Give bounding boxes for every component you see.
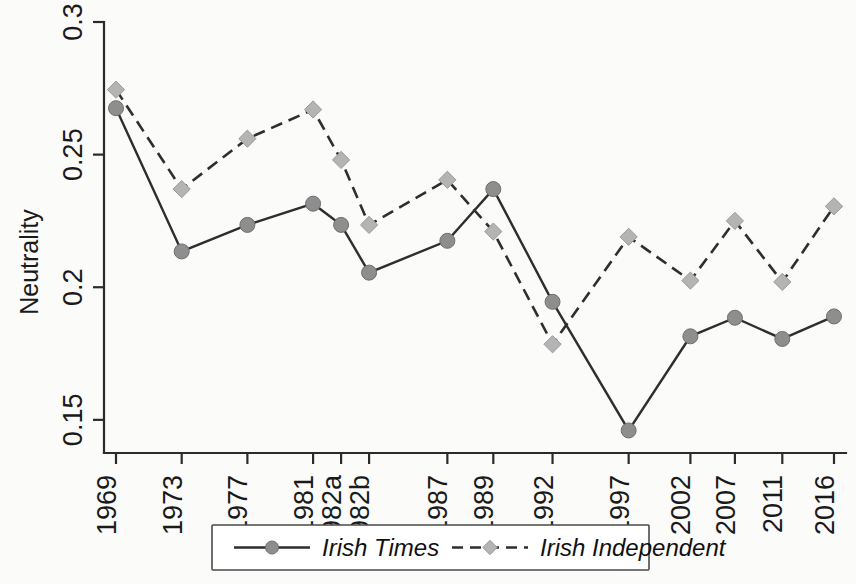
y-axis-tick-label: 0.3 [58,3,88,41]
y-axis-tick-label: 0.15 [58,394,88,447]
data-point-marker [683,329,698,344]
data-point-marker [440,233,455,248]
chart-legend: Irish TimesIrish Independent [212,525,727,570]
y-axis-title: Neutrality [15,209,43,315]
data-point-marker [621,423,636,438]
data-point-marker [306,196,321,211]
y-axis-tick-label: 0.25 [58,128,88,181]
data-point-marker [727,310,742,325]
data-point-marker [362,265,377,280]
legend-marker-circle [266,541,279,554]
data-point-marker [486,182,501,197]
data-point-marker [109,101,124,116]
neutrality-line-chart: 0.150.20.250.3 19691973197719811982a1982… [0,0,856,584]
x-axis-tick-label: 2016 [810,475,840,535]
legend-label-irish-times: Irish Times [322,534,439,561]
data-point-marker [174,244,189,259]
data-point-marker [240,217,255,232]
legend-label-irish-independent: Irish Independent [540,534,727,561]
data-point-marker [545,294,560,309]
data-point-marker [334,217,349,232]
x-axis-tick-label: 2011 [758,475,788,533]
data-point-marker [827,309,842,324]
x-axis-tick-label: 2007 [711,475,741,535]
y-axis-tick-label: 0.2 [58,268,88,306]
x-axis-tick-label: 1973 [158,475,188,535]
x-axis-tick-label: 2002 [666,475,696,535]
chart-figure: 0.150.20.250.3 19691973197719811982a1982… [0,0,856,584]
data-point-marker [775,331,790,346]
x-axis-tick-label: 1969 [92,475,122,535]
